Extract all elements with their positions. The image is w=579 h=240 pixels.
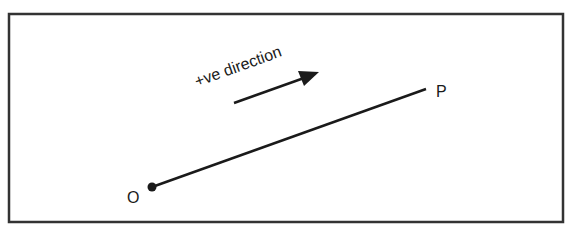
point-p-label: P <box>436 83 447 100</box>
diagram-canvas: +ve direction O P <box>0 0 579 240</box>
arrow-head-icon <box>298 71 319 86</box>
arrow-shaft <box>234 78 304 103</box>
direction-arrow <box>234 71 319 103</box>
point-o-label: O <box>127 189 139 206</box>
frame-border <box>9 14 563 222</box>
line-segment-op <box>152 89 426 187</box>
point-o-dot <box>148 183 157 192</box>
direction-label: +ve direction <box>192 43 283 90</box>
